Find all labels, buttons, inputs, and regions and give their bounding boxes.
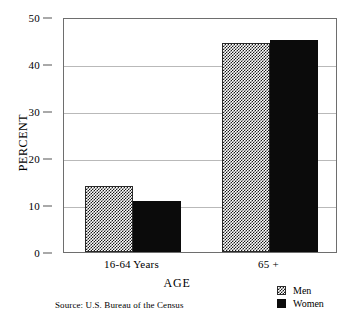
x-category-label: 65 + xyxy=(258,258,279,270)
plot-area xyxy=(63,18,337,253)
y-tick-label: 0 xyxy=(34,248,40,259)
legend-label: Women xyxy=(293,297,324,310)
checkered-swatch-icon xyxy=(277,286,286,295)
y-tick-mark xyxy=(43,18,52,19)
y-axis: 01020304050 xyxy=(0,0,63,271)
y-axis-title: PERCENT xyxy=(16,73,31,213)
x-category-label: 16-64 Years xyxy=(104,258,159,270)
legend-item-women: Women xyxy=(277,297,324,310)
chart-legend: MenWomen xyxy=(277,284,324,310)
y-tick-mark xyxy=(43,112,52,113)
y-tick-mark xyxy=(43,253,52,254)
y-tick-mark xyxy=(43,159,52,160)
y-tick-label: 40 xyxy=(29,60,40,71)
legend-item-men: Men xyxy=(277,284,324,297)
bar-women-1 xyxy=(133,201,181,252)
solid-black-swatch-icon xyxy=(277,299,286,308)
bar-men-1 xyxy=(85,186,133,252)
y-tick-mark xyxy=(43,206,52,207)
bar-women-2 xyxy=(270,40,318,252)
bar-chart-figure: 01020304050 PERCENT 16-64 Years65 + AGE … xyxy=(0,0,354,321)
y-tick-label: 50 xyxy=(29,13,40,24)
source-note: Source: U.S. Bureau of the Census xyxy=(55,300,184,310)
y-tick-mark xyxy=(43,65,52,66)
legend-label: Men xyxy=(293,284,311,297)
bar-men-2 xyxy=(222,43,270,252)
